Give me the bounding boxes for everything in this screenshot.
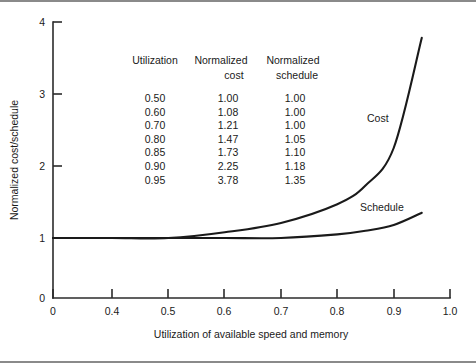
table-cell: 0.60 (145, 106, 166, 118)
table-cell: 0.80 (145, 133, 166, 145)
y-axis-tick-labels: 4 3 2 1 0 (39, 16, 45, 304)
y-tick-label-0: 0 (39, 292, 45, 304)
inset-data-table: Utilization Normalized cost Normalized s… (132, 54, 319, 186)
y-tick-label-4: 4 (39, 16, 45, 28)
y-tick-label-1: 1 (39, 232, 45, 244)
table-cell: 1.00 (285, 92, 306, 104)
table-cell: 1.35 (285, 174, 306, 186)
chart-figure: 4 3 2 1 0 0 0.4 0.5 0.6 0.7 0.8 0.9 1.0 (0, 0, 476, 363)
chart-plot-area: 4 3 2 1 0 0 0.4 0.5 0.6 0.7 0.8 0.9 1.0 (0, 0, 476, 363)
table-cell: 1.08 (218, 106, 239, 118)
schedule-curve-label: Schedule (360, 201, 404, 213)
x-tick-label-0-6: 0.6 (217, 305, 232, 317)
table-header-cost-line2: cost (224, 69, 243, 81)
y-axis-title: Normalized cost/schedule (8, 100, 20, 220)
x-tick-label-0-5: 0.5 (161, 305, 176, 317)
table-rows-group: 0.501.001.000.601.081.000.701.211.000.80… (145, 92, 306, 186)
table-cell: 0.70 (145, 119, 166, 131)
table-cell: 1.10 (285, 146, 306, 158)
x-axis-title: Utilization of available speed and memor… (154, 328, 349, 340)
x-tick-label-0-7: 0.7 (274, 305, 289, 317)
table-cell: 0.95 (145, 174, 166, 186)
x-axis-ticks (53, 289, 450, 298)
x-tick-label-0-9: 0.9 (387, 305, 402, 317)
table-cell: 1.21 (218, 119, 239, 131)
table-header-utilization: Utilization (132, 54, 178, 66)
table-cell: 1.00 (285, 119, 306, 131)
table-header-schedule-line1: Normalized (266, 54, 319, 66)
table-cell: 1.05 (285, 133, 306, 145)
table-cell: 1.00 (285, 106, 306, 118)
table-header-cost-line1: Normalized (194, 54, 247, 66)
x-tick-label-0-8: 0.8 (330, 305, 345, 317)
table-cell: 0.85 (145, 146, 166, 158)
table-cell: 1.47 (218, 133, 239, 145)
y-tick-label-2: 2 (39, 160, 45, 172)
table-cell: 3.78 (218, 174, 239, 186)
cost-curve-label: Cost (367, 112, 389, 124)
table-cell: 1.73 (218, 146, 239, 158)
table-cell: 1.00 (218, 92, 239, 104)
x-tick-label-0-4: 0.4 (105, 305, 120, 317)
table-header-schedule-line2: schedule (276, 69, 318, 81)
table-cell: 0.50 (145, 92, 166, 104)
y-axis-ticks (53, 22, 62, 238)
x-tick-label-1-0: 1.0 (443, 305, 458, 317)
y-tick-label-3: 3 (39, 88, 45, 100)
x-tick-label-0: 0 (50, 305, 56, 317)
table-cell: 2.25 (218, 160, 239, 172)
x-axis-tick-labels: 0 0.4 0.5 0.6 0.7 0.8 0.9 1.0 (50, 305, 457, 317)
table-cell: 1.18 (285, 160, 306, 172)
table-cell: 0.90 (145, 160, 166, 172)
schedule-curve (53, 213, 422, 238)
